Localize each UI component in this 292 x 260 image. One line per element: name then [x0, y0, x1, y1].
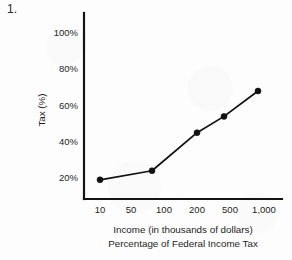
x-tick-label-50: 50 — [126, 204, 137, 215]
y-axis-title: Tax (%) — [36, 93, 47, 126]
y-tick-label-20: 20% — [59, 172, 79, 183]
data-point-200 — [194, 130, 200, 136]
data-point-500 — [221, 113, 227, 119]
data-point-10 — [97, 177, 103, 183]
x-tick-label-500: 500 — [222, 204, 238, 215]
x-tick-label-200: 200 — [189, 204, 205, 215]
x-tick-label-100: 100 — [156, 204, 172, 215]
chart-svg: 20% 40% 60% 80% 100% Tax (%) 10 50 100 2… — [0, 0, 292, 260]
y-tick-label-40: 40% — [59, 136, 79, 147]
data-point-90 — [149, 168, 155, 174]
y-tick-label-60: 60% — [59, 100, 79, 111]
x-tick-label-10: 10 — [95, 204, 106, 215]
line-chart: 20% 40% 60% 80% 100% Tax (%) 10 50 100 2… — [0, 0, 292, 260]
y-tick-label-100: 100% — [54, 27, 79, 38]
series-markers — [97, 88, 261, 183]
series-line — [100, 91, 258, 180]
x-tick-label-1000: 1,000 — [252, 204, 276, 215]
x-axis-caption: Income (in thousands of dollars) — [113, 224, 252, 235]
y-tick-label-80: 80% — [59, 63, 79, 74]
data-point-1000 — [255, 88, 261, 94]
figure-caption: Percentage of Federal Income Tax — [108, 238, 258, 249]
